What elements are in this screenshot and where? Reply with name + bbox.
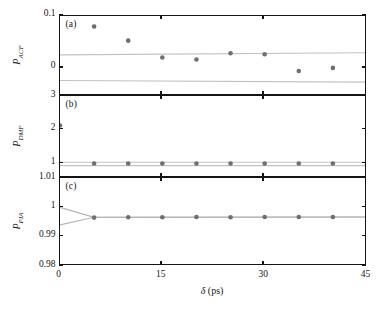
panel-a-y-axis-label-sub: ACF [17, 45, 25, 58]
y-tick-label: 3 [22, 89, 56, 99]
data-point [160, 215, 165, 220]
x-tick-mark [160, 15, 161, 19]
panel-a-y-axis-label-base: P [11, 58, 22, 64]
panel-c-y-axis-label-sub: PIA [17, 213, 25, 224]
data-point [228, 215, 233, 220]
series-line-c [60, 207, 366, 217]
y-tick-label: 0.1 [22, 8, 56, 18]
panel-b-plot-area [60, 96, 366, 177]
y-tick-label: 0.99 [22, 229, 56, 239]
data-point [296, 161, 301, 166]
y-tick-label: 1 [22, 200, 56, 210]
y-tick-label: 0 [22, 60, 56, 70]
y-tick-mark [362, 128, 366, 129]
y-tick-mark [59, 128, 63, 129]
y-tick-mark [362, 235, 366, 236]
figure-canvas: (a) PACF (b) PDMF (c) PPIA 0.103211.0110… [0, 0, 383, 309]
data-point [160, 161, 165, 166]
x-tick-label: 30 [243, 269, 283, 279]
panel-c-y-axis-label-base: P [11, 223, 22, 229]
y-tick-mark [59, 14, 63, 15]
panel-c: (c) [59, 177, 366, 265]
y-tick-mark [362, 94, 366, 95]
data-point [330, 65, 335, 70]
x-tick-mark [160, 177, 161, 181]
y-tick-mark [59, 206, 63, 207]
series-line-a [60, 80, 366, 82]
data-point [91, 161, 96, 166]
data-point [125, 161, 130, 166]
data-point [262, 51, 267, 56]
x-tick-label: 0 [39, 269, 79, 279]
data-point [330, 161, 335, 166]
series-line-c [60, 217, 366, 225]
data-point [125, 215, 130, 220]
x-tick-label: 15 [141, 269, 181, 279]
y-tick-mark [362, 162, 366, 163]
data-point [91, 24, 96, 29]
x-tick-mark [262, 261, 263, 265]
y-tick-mark [362, 66, 366, 67]
data-point [228, 50, 233, 55]
data-point [228, 161, 233, 166]
data-point [160, 55, 165, 60]
y-tick-mark [59, 235, 63, 236]
x-tick-mark [262, 177, 263, 181]
x-tick-mark [160, 95, 161, 99]
data-point [194, 161, 199, 166]
data-point [262, 215, 267, 220]
x-tick-label: 45 [346, 269, 383, 279]
y-tick-mark [59, 264, 63, 265]
x-tick-mark [262, 15, 263, 19]
y-tick-mark [59, 66, 63, 67]
y-tick-mark [59, 162, 63, 163]
panel-a: (a) [59, 15, 366, 96]
y-tick-mark [59, 176, 63, 177]
data-point [330, 215, 335, 220]
data-point [296, 68, 301, 73]
x-axis-unit: (ps) [208, 285, 224, 296]
y-tick-label: 1.01 [22, 171, 56, 181]
data-point [194, 215, 199, 220]
y-tick-mark [362, 264, 366, 265]
data-point [91, 215, 96, 220]
y-tick-mark [362, 176, 366, 177]
data-point [125, 38, 130, 43]
panel-a-plot-area [60, 16, 366, 96]
y-tick-label: 0.98 [22, 259, 56, 269]
x-axis-label: δ (ps) [152, 285, 272, 296]
x-tick-mark [262, 95, 263, 99]
x-tick-mark [160, 261, 161, 265]
y-tick-label: 2 [22, 122, 56, 132]
data-point [262, 161, 267, 166]
panel-c-plot-area [60, 178, 366, 265]
data-point [296, 215, 301, 220]
y-tick-mark [362, 14, 366, 15]
y-tick-mark [362, 206, 366, 207]
data-point [194, 57, 199, 62]
panel-b-y-axis-label-base: P [11, 141, 22, 147]
y-tick-mark [59, 94, 63, 95]
series-line-a [60, 52, 366, 54]
panel-b: (b) [59, 95, 366, 177]
x-axis-symbol: δ [201, 285, 206, 296]
y-tick-label: 1 [22, 156, 56, 166]
